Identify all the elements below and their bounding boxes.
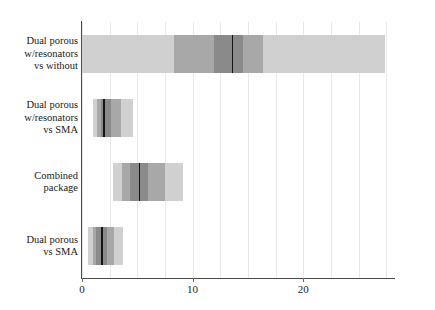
x-tick-label-0: 0 [79, 283, 85, 295]
interval-chart: Dual porous w/resonators vs withoutDual … [0, 0, 435, 310]
interval-row [82, 163, 395, 201]
x-tick-label-1: 10 [187, 283, 198, 295]
category-label-3: Dual porous vs SMA [0, 234, 78, 259]
median-line [232, 35, 234, 73]
x-tick-2 [303, 278, 304, 282]
y-axis-spine [81, 21, 82, 279]
median-line [103, 99, 105, 137]
interval-row [82, 35, 395, 73]
x-tick-0 [82, 278, 83, 282]
interval-row [82, 99, 395, 137]
plot-area [82, 22, 395, 278]
interval-band-inner-interval [214, 35, 244, 73]
interval-band-inner-interval [101, 99, 111, 137]
x-axis-spine [81, 278, 395, 279]
category-label-0: Dual porous w/resonators vs without [0, 35, 78, 73]
category-label-1: Dual porous w/resonators vs SMA [0, 99, 78, 137]
median-line [139, 163, 141, 201]
x-tick-1 [193, 278, 194, 282]
category-label-2: Combined package [0, 170, 78, 195]
median-line [101, 227, 103, 265]
interval-row [82, 227, 395, 265]
x-tick-label-2: 20 [298, 283, 309, 295]
